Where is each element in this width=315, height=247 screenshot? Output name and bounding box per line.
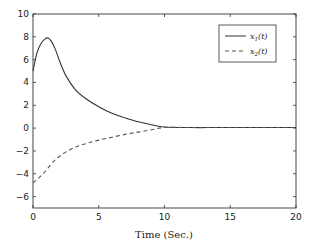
y-tick-label: 0 <box>23 123 29 133</box>
legend-label-x1: x1(t) <box>250 32 267 42</box>
line-chart: 05101520 1086420−2−4−6 Time (Sec.) x1(t)… <box>0 0 315 247</box>
x-tick-label: 15 <box>225 212 236 222</box>
y-tick-labels: 1086420−2−4−6 <box>16 9 30 202</box>
x-tick-label: 5 <box>96 212 102 222</box>
x-tick-label: 0 <box>30 212 36 222</box>
y-tick-label: −6 <box>16 192 30 202</box>
y-tick-label: −4 <box>16 169 30 179</box>
x-tick-label: 20 <box>290 212 302 222</box>
y-tick-label: 4 <box>23 77 29 87</box>
y-tick-label: 8 <box>23 32 29 42</box>
legend: x1(t) x2(t) <box>219 25 276 62</box>
x-tick-labels: 05101520 <box>30 212 302 222</box>
y-tick-label: 6 <box>23 55 29 65</box>
y-tick-label: 2 <box>23 100 29 110</box>
y-tick-label: 10 <box>18 9 30 19</box>
series-2-line <box>33 127 296 183</box>
legend-label-x2: x2(t) <box>250 47 267 57</box>
x-tick-label: 10 <box>159 212 171 222</box>
y-tick-label: −2 <box>16 146 29 156</box>
x-axis-label: Time (Sec.) <box>135 229 193 240</box>
legend-box <box>219 25 276 62</box>
